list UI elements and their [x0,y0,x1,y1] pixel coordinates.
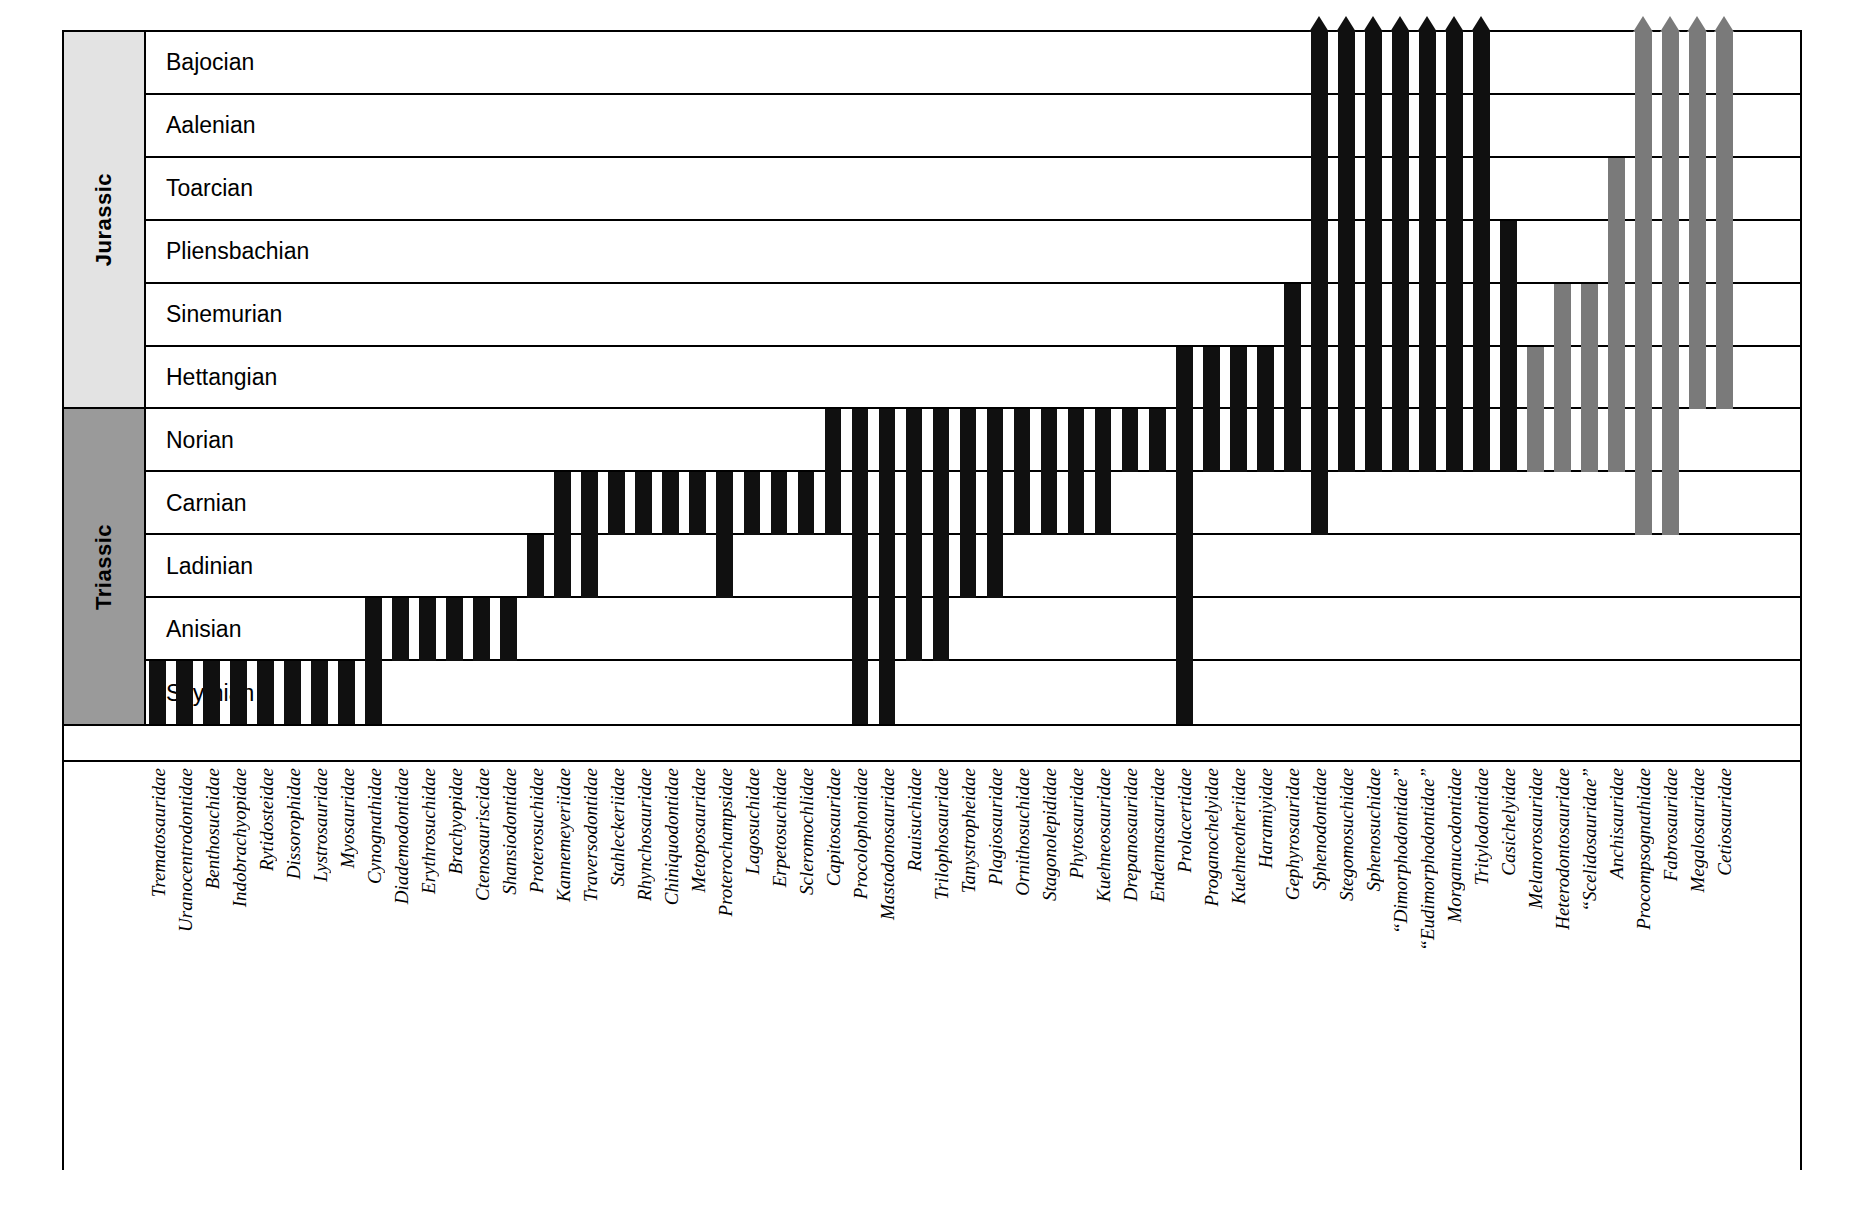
range-bar [1365,32,1382,472]
range-bar [554,472,571,598]
range-bar [608,472,625,535]
range-continues-arrow-icon [1336,16,1356,32]
range-bar [230,661,247,724]
taxon-label: Cynognathidae [364,768,386,884]
range-bar [662,472,679,535]
stratigraphic-range-chart: JurassicTriassic BajocianAalenianToarcia… [0,0,1858,1219]
taxon-label: Plagiosauridae [985,768,1007,885]
range-bar [635,472,652,535]
range-bar [446,598,463,661]
taxon-label: Indobrachyopidae [229,768,251,907]
taxon-label: Tanystropheidae [958,768,980,893]
taxon-label: Anchisauridae [1606,768,1628,879]
taxon-label: Haramiyidae [1255,768,1277,868]
taxon-label: Lagosuchidae [742,768,764,875]
taxon-label: Myosauridae [337,768,359,868]
taxon-label: Diademodontidae [391,768,413,904]
range-bar [1419,32,1436,472]
taxon-label: Uranocentrodontidae [175,768,197,932]
taxon-label: Traversodontidae [580,768,602,902]
period-label: Triassic [91,524,117,610]
period-label: Jurassic [91,173,117,266]
taxon-label: Melanorosauridae [1525,768,1547,909]
range-bar [771,472,788,535]
taxon-label: Heterodontosauridae [1552,768,1574,930]
range-continues-arrow-icon [1390,16,1410,32]
range-bar [1608,158,1625,473]
range-bar [716,472,733,598]
range-bar [257,661,274,724]
taxon-label: “Dimorphodontidae” [1390,768,1412,934]
range-bar [1473,32,1490,472]
range-bar [1284,284,1301,473]
range-bar [933,409,950,661]
taxon-label: Megalosauridae [1687,768,1709,893]
taxon-label: Rytidosteidae [256,768,278,871]
taxon-label: Prolacertidae [1174,768,1196,873]
taxon-label: Ornithosuchidae [1012,768,1034,896]
taxon-label: Rauisuchidae [904,768,926,871]
taxon-label: Erpetosuchidae [769,768,791,887]
taxon-label: Kuehneosauridae [1093,768,1115,902]
taxon-label: Stegomosuchidae [1336,768,1358,901]
period-block-jurassic: Jurassic [64,32,146,409]
range-continues-arrow-icon [1633,16,1653,32]
range-bar [1041,409,1058,535]
taxon-label: Gephyrosauridae [1282,768,1304,900]
taxon-label: Ctenosauriscidae [472,768,494,901]
taxon-label: Benthosuchidae [202,768,224,889]
range-bar [1122,409,1139,472]
range-bar [1257,347,1274,473]
taxon-label: Tritylodontidae [1471,768,1493,885]
taxon-label: Metoposauridae [688,768,710,893]
range-bar [825,409,842,535]
range-bar [473,598,490,661]
range-bar [1716,32,1733,409]
taxon-label: Trematosauridae [148,768,170,897]
range-bar [1176,347,1193,724]
range-bar [744,472,761,535]
range-bar [1068,409,1085,535]
taxon-label: Drepanosauridae [1120,768,1142,901]
range-continues-arrow-icon [1309,16,1329,32]
range-bar [1662,32,1679,535]
range-continues-arrow-icon [1417,16,1437,32]
range-bar [1014,409,1031,535]
range-continues-arrow-icon [1714,16,1734,32]
taxon-label: Procolophonidae [850,768,872,899]
taxon-label: Phytosauridae [1066,768,1088,879]
taxon-label: Casichelyidae [1498,768,1520,876]
range-bar [203,661,220,724]
range-bar [527,535,544,598]
taxon-label: Fabrosauridae [1660,768,1682,881]
taxon-label: Proterochampsidae [715,768,737,916]
taxon-label: Rhynchosauridae [634,768,656,901]
taxon-label: Morganucodontidae [1444,768,1466,922]
range-bar [689,472,706,535]
range-bar [1554,284,1571,473]
range-bar [365,598,382,724]
taxon-label: Procompsognathidae [1633,768,1655,930]
range-continues-arrow-icon [1363,16,1383,32]
range-continues-arrow-icon [1444,16,1464,32]
taxon-label: Kannemeyeriidae [553,768,575,902]
taxon-label: “Eudimorphodontidae” [1417,768,1439,951]
taxon-label: Brachyopidae [445,768,467,875]
range-bar [419,598,436,661]
taxon-label: Sphenodontidae [1309,768,1331,890]
period-block-triassic: Triassic [64,409,146,724]
range-bar [1203,347,1220,473]
range-continues-arrow-icon [1471,16,1491,32]
range-bar [879,409,896,724]
taxon-label: Trilophosauridae [931,768,953,900]
range-bar [1635,32,1652,535]
range-bar [311,661,328,724]
range-bar [338,661,355,724]
range-bar [581,472,598,598]
taxon-label: Stagonolepididae [1039,768,1061,901]
taxon-label: “Scelidosauridae” [1579,768,1601,912]
taxon-label: Shansiodontidae [499,768,521,895]
taxon-label: Chiniquodontidae [661,768,683,905]
range-bar [852,409,869,724]
range-bar [1392,32,1409,472]
